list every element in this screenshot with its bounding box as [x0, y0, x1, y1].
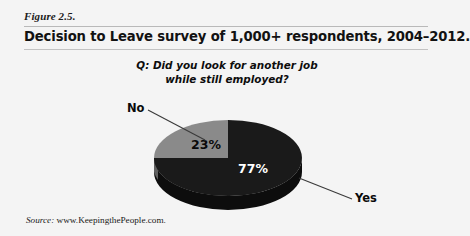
source-line: Source: www.KeepingthePeople.com.: [26, 215, 166, 225]
figure-number: Figure 2.5.: [24, 10, 76, 22]
pie-chart: [152, 118, 304, 214]
pie-label-yes-percent: 77%: [238, 161, 268, 176]
leader-line-yes: [299, 178, 352, 199]
source-value: www.KeepingthePeople.com.: [57, 215, 166, 225]
chart-title-line-2: while still employed?: [112, 73, 342, 87]
source-label: Source:: [26, 215, 54, 225]
callout-label-no: No: [127, 101, 145, 115]
pie-label-no-percent: 23%: [191, 137, 221, 152]
figure-caption: Decision to Leave survey of 1,000+ respo…: [24, 29, 470, 44]
header-rule-top: [24, 26, 428, 27]
chart-title-line-1: Q: Did you look for another job: [112, 59, 342, 73]
chart-title: Q: Did you look for another job while st…: [112, 59, 342, 86]
callout-label-yes: Yes: [355, 191, 377, 205]
pie-chart-svg: [152, 118, 304, 214]
header-rule-bottom: [24, 49, 428, 50]
